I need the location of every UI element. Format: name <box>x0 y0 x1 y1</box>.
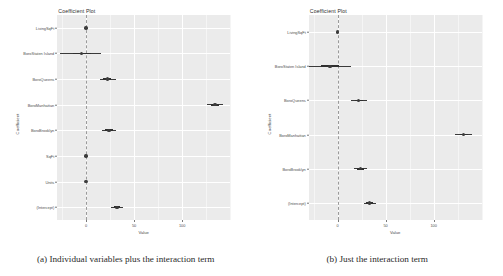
coefficient-point <box>368 201 371 204</box>
y-axis-tick-label: (Intercept) <box>37 205 55 210</box>
x-axis-tick-label: 50 <box>132 223 136 228</box>
gridline-minor-vertical <box>158 15 159 220</box>
y-axis-tick-mark <box>307 203 309 204</box>
plot-title-a: Coefficient Plot <box>58 8 95 14</box>
coefficient-point <box>357 99 360 102</box>
coefficient-plot-figure: Coefficient Plot Coefficient 050100Livin… <box>0 0 503 276</box>
x-axis-tick-mark <box>434 220 435 222</box>
gridline-minor-vertical <box>410 15 411 220</box>
plot-panel-b: 050100LivingSqFtBoroStaten IslandBoroQue… <box>309 15 482 220</box>
coefficient-point <box>106 77 109 80</box>
gridline-major-horizontal <box>57 79 230 80</box>
x-axis-label-b: Value <box>309 230 482 235</box>
y-axis-tick-mark <box>55 207 57 208</box>
y-axis-tick-label: Units <box>45 179 54 184</box>
gridline-major-horizontal <box>57 28 230 29</box>
gridline-minor-vertical <box>362 15 363 220</box>
gridline-major-vertical <box>386 15 387 220</box>
gridline-minor-vertical <box>314 15 315 220</box>
gridline-major-horizontal <box>57 182 230 183</box>
coefficient-point <box>462 133 465 136</box>
caption-b: (b) Just the interaction term <box>252 254 503 264</box>
y-axis-tick-label: SqFt <box>46 153 54 158</box>
plot-title-b: Coefficient Plot <box>310 8 347 14</box>
subfigure-b: Coefficient Plot Coefficient 050100Livin… <box>252 0 503 276</box>
x-axis-tick-mark <box>86 220 87 222</box>
gridline-minor-vertical <box>206 15 207 220</box>
gridline-major-horizontal <box>57 156 230 157</box>
y-axis-tick-label: BoroBrooklyn <box>282 166 305 171</box>
gridline-minor-vertical <box>62 15 63 220</box>
y-axis-tick-label: BoroBrooklyn <box>31 128 54 133</box>
gridline-major-horizontal <box>57 207 230 208</box>
x-axis-label-a: Value <box>57 230 230 235</box>
plot-panel-a: 050100LivingSqFtBoroStaten IslandBoroQue… <box>57 15 230 220</box>
caption-a: (a) Individual variables plus the intera… <box>0 254 252 264</box>
x-axis-tick-label: 100 <box>430 223 437 228</box>
y-axis-tick-mark <box>55 79 57 80</box>
y-axis-tick-label: BoroStaten Island <box>23 51 54 56</box>
coefficient-point <box>80 52 83 55</box>
gridline-minor-vertical <box>230 15 231 220</box>
x-axis-tick-label: 0 <box>336 223 338 228</box>
zero-reference-line <box>338 15 339 220</box>
x-axis-tick-mark <box>182 220 183 222</box>
x-axis-tick-mark <box>338 220 339 222</box>
gridline-major-horizontal <box>309 203 482 204</box>
x-axis-tick-mark <box>386 220 387 222</box>
coefficient-point <box>328 65 331 68</box>
y-axis-tick-label: BoroStaten Island <box>275 64 306 69</box>
y-axis-tick-mark <box>55 130 57 131</box>
y-axis-tick-mark <box>307 168 309 169</box>
y-axis-label-a: Coefficient <box>15 114 20 135</box>
gridline-major-horizontal <box>309 32 482 33</box>
x-axis-tick-label: 50 <box>383 223 387 228</box>
y-axis-label-b: Coefficient <box>267 114 272 135</box>
gridline-major-horizontal <box>309 100 482 101</box>
gridline-minor-vertical <box>482 15 483 220</box>
gridline-major-vertical <box>434 15 435 220</box>
y-axis-tick-mark <box>55 156 57 157</box>
plot-b: Coefficient Plot Coefficient 050100Livin… <box>265 4 490 244</box>
x-axis-tick-label: 100 <box>179 223 186 228</box>
y-axis-tick-mark <box>307 134 309 135</box>
coefficient-point <box>84 154 87 157</box>
y-axis-tick-mark <box>55 104 57 105</box>
y-axis-tick-mark <box>55 53 57 54</box>
x-axis-tick-label: 0 <box>85 223 87 228</box>
y-axis-tick-mark <box>55 181 57 182</box>
gridline-major-horizontal <box>57 130 230 131</box>
y-axis-tick-label: BoroQueens <box>32 77 54 82</box>
coefficient-point <box>336 30 339 33</box>
gridline-minor-vertical <box>458 15 459 220</box>
gridline-major-vertical <box>182 15 183 220</box>
y-axis-tick-label: BoroManhattan <box>279 132 306 137</box>
y-axis-tick-label: (Intercept) <box>288 200 306 205</box>
y-axis-tick-mark <box>307 100 309 101</box>
y-axis-tick-label: LivingSqFt <box>36 25 54 30</box>
zero-reference-line <box>86 15 87 220</box>
coefficient-point <box>213 103 216 106</box>
subfigure-a: Coefficient Plot Coefficient 050100Livin… <box>0 0 252 276</box>
coefficient-point <box>107 129 110 132</box>
gridline-major-vertical <box>134 15 135 220</box>
coefficient-point <box>84 180 87 183</box>
y-axis-tick-mark <box>307 32 309 33</box>
y-axis-tick-label: BoroManhattan <box>28 102 55 107</box>
x-axis-tick-mark <box>134 220 135 222</box>
y-axis-tick-mark <box>55 28 57 29</box>
gridline-major-horizontal <box>57 105 230 106</box>
gridline-major-horizontal <box>309 169 482 170</box>
plot-a: Coefficient Plot Coefficient 050100Livin… <box>13 4 238 244</box>
gridline-minor-vertical <box>110 15 111 220</box>
y-axis-tick-label: BoroQueens <box>284 98 306 103</box>
y-axis-tick-label: LivingSqFt <box>287 30 305 35</box>
coefficient-point <box>115 206 118 209</box>
coefficient-point <box>84 26 87 29</box>
